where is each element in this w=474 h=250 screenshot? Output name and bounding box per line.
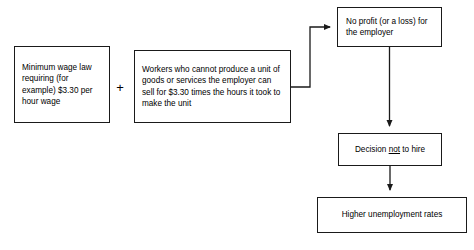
node-workers-cannot-produce-label: Workers who cannot produce a unit of goo… (135, 64, 290, 110)
node-no-profit-label: No profit (or a loss) for the employer (338, 16, 441, 39)
edge-workers-to-no-profit (291, 27, 330, 87)
decision-text-emphasis: not (389, 145, 400, 154)
node-minimum-wage-law: Minimum wage law requiring (for example)… (14, 46, 110, 123)
flowchart-canvas: Minimum wage law requiring (for example)… (0, 0, 474, 250)
decision-text-prefix: Decision (355, 145, 389, 154)
node-no-profit: No profit (or a loss) for the employer (337, 7, 442, 47)
node-minimum-wage-law-label: Minimum wage law requiring (for example)… (15, 62, 109, 108)
node-higher-unemployment-rates-label: Higher unemployment rates (318, 209, 466, 220)
plus-operator-symbol: + (112, 80, 128, 96)
node-decision-not-to-hire-label: Decision not to hire (339, 144, 441, 155)
node-workers-cannot-produce: Workers who cannot produce a unit of goo… (134, 50, 291, 123)
node-decision-not-to-hire: Decision not to hire (338, 133, 442, 166)
node-higher-unemployment-rates: Higher unemployment rates (317, 197, 467, 233)
decision-text-suffix: to hire (400, 145, 425, 154)
